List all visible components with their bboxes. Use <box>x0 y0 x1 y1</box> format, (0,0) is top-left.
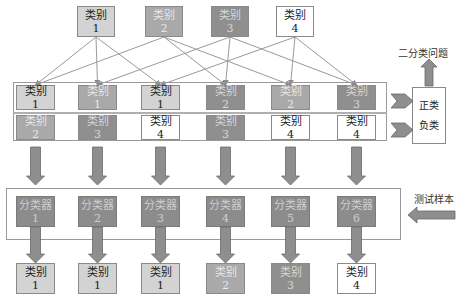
down-arrow-to-classifier-5 <box>282 147 300 185</box>
down-arrow-to-classifier-3 <box>152 147 170 185</box>
down-arrow-to-classifier-4 <box>217 147 235 185</box>
down-arrow-to-classifier-6 <box>348 147 366 185</box>
down-arrow-to-result-6 <box>348 227 366 263</box>
positive-chevron-arrow-icon <box>391 94 413 108</box>
down-arrow-to-result-1 <box>27 227 45 263</box>
down-arrow-to-result-2 <box>89 227 107 263</box>
negative-chevron-arrow-icon <box>391 123 413 137</box>
down-arrow-to-result-4 <box>217 227 235 263</box>
flow-arrows <box>0 0 460 306</box>
test-sample-arrow-icon <box>408 207 455 223</box>
down-arrow-to-classifier-2 <box>89 147 107 185</box>
down-arrow-to-classifier-1 <box>27 147 45 185</box>
up-arrow-icon <box>421 59 437 86</box>
down-arrow-to-result-3 <box>152 227 170 263</box>
down-arrow-to-result-5 <box>282 227 300 263</box>
